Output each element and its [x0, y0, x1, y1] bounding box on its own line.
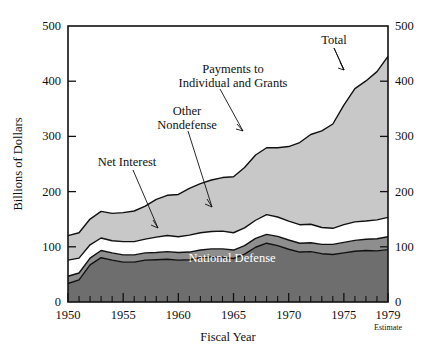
y-tick-label-left-200: 200	[42, 185, 61, 199]
y-tick-label-right-300: 300	[395, 129, 414, 143]
x-tick-label-1979: 1979	[376, 308, 401, 322]
x-tick-label-1950: 1950	[56, 308, 81, 322]
y-tick-label-right-100: 100	[395, 240, 414, 254]
y-tick-label-right-500: 500	[395, 19, 414, 33]
y-axis-right-labels: 0100200300400500	[395, 19, 414, 309]
label-national-defense: National Defense	[188, 251, 276, 265]
label-net-interest: Net Interest	[98, 155, 157, 169]
label-payments-line1: Payments to	[202, 62, 263, 76]
label-other-line1: Other	[173, 104, 202, 118]
y-tick-label-right-0: 0	[395, 295, 401, 309]
estimate-note: Estimate	[374, 323, 402, 332]
x-tick-label-1975: 1975	[331, 308, 356, 322]
y-axis-title: Billions of Dollars	[11, 117, 25, 210]
label-total: Total	[321, 33, 347, 47]
y-tick-label-left-300: 300	[42, 129, 61, 143]
y-tick-label-right-200: 200	[395, 185, 414, 199]
x-axis-title: Fiscal Year	[200, 330, 256, 344]
stacked-area-chart: 0100200300400500 0100200300400500 195019…	[0, 0, 432, 349]
label-payments-line2: Individual and Grants	[178, 76, 287, 90]
x-tick-label-1970: 1970	[276, 308, 301, 322]
label-other-line2: Nondefense	[157, 118, 217, 132]
chart-container: 0100200300400500 0100200300400500 195019…	[0, 0, 432, 349]
y-tick-label-left-400: 400	[42, 74, 61, 88]
y-tick-label-left-500: 500	[42, 19, 61, 33]
x-tick-label-1965: 1965	[221, 308, 246, 322]
y-tick-label-right-400: 400	[395, 74, 414, 88]
x-axis-labels: 1950195519601965197019751979	[56, 308, 401, 322]
y-tick-label-left-0: 0	[55, 295, 61, 309]
y-axis-left-labels: 0100200300400500	[42, 19, 61, 309]
x-tick-label-1960: 1960	[166, 308, 191, 322]
x-tick-label-1955: 1955	[111, 308, 136, 322]
y-tick-label-left-100: 100	[42, 240, 61, 254]
